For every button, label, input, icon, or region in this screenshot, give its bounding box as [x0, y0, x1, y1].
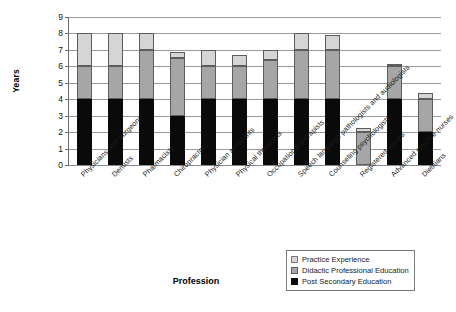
- legend-item[interactable]: Didactic Professional Education: [291, 265, 409, 276]
- legend-swatch-icon: [291, 278, 298, 285]
- legend-swatch-icon: [291, 256, 298, 263]
- x-category-label: Speech language pathologists and audiolo…: [295, 63, 411, 179]
- legend-label: Didactic Professional Education: [302, 266, 409, 275]
- x-category-label: Dietitians: [419, 151, 447, 179]
- x-category-label: Pharmacists: [140, 144, 175, 179]
- legend-swatch-icon: [291, 267, 298, 274]
- legend-label: Practice Experience: [302, 255, 370, 264]
- x-category-label: Counseling psychologists: [326, 113, 391, 178]
- legend-item[interactable]: Practice Experience: [291, 254, 409, 265]
- chart-legend: Practice ExperienceDidactic Professional…: [286, 250, 415, 291]
- x-axis-title: Profession: [136, 276, 256, 286]
- legend-label: Post Secondary Education: [302, 277, 392, 286]
- chart-root: Years 0123456789 Physicians and Surgeons…: [0, 0, 456, 312]
- x-category-label: Dentists: [109, 153, 134, 178]
- x-category-label: Physicians and Surgeons: [78, 113, 143, 178]
- x-category-label: Occupational therapists: [264, 118, 325, 179]
- legend-item[interactable]: Post Secondary Education: [291, 276, 409, 287]
